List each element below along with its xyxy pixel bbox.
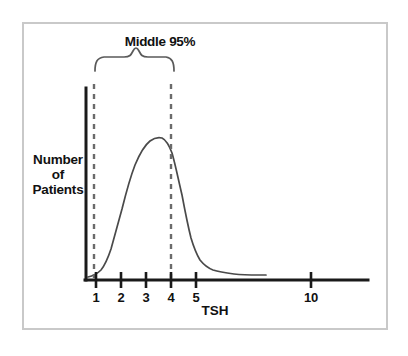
distribution-curve: [88, 138, 266, 277]
middle-95-label: Middle 95%: [110, 34, 210, 49]
y-axis-title-line-2: of: [24, 167, 92, 182]
y-axis-title: Number of Patients: [24, 152, 92, 197]
y-axis-title-line-1: Number: [24, 152, 92, 167]
x-tick-label-10: 10: [296, 290, 326, 305]
x-axis-title: TSH: [185, 303, 245, 318]
y-axis-title-line-3: Patients: [24, 182, 92, 197]
middle-95-brace-icon: [95, 48, 174, 71]
